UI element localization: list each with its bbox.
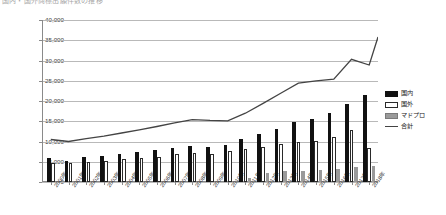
page-title: 国内・国外商標出願件数の推移 — [2, 0, 122, 4]
bar-group: 2009年 — [201, 20, 219, 182]
legend-swatch-madrid — [385, 113, 398, 119]
x-tick-mark — [175, 182, 176, 185]
bar-group: 2013年 — [272, 20, 290, 182]
bar-foreign — [279, 144, 283, 182]
bar-group: 2014年 — [290, 20, 308, 182]
bar-group: 2007年 — [166, 20, 184, 182]
bar-domestic — [345, 104, 349, 182]
bar-domestic — [118, 154, 122, 182]
bar-foreign — [350, 130, 354, 182]
bar-foreign — [261, 147, 265, 182]
bar-group: 2010年 — [219, 20, 237, 182]
legend-swatch-foreign — [385, 102, 398, 108]
bar-group: 2006年 — [148, 20, 166, 182]
bar-foreign — [244, 149, 248, 182]
plot-area: 2000年2001年2002年2003年2004年2005年2006年2007年… — [42, 20, 378, 182]
bar-group: 2000年 — [42, 20, 60, 182]
bar-domestic — [135, 152, 139, 182]
bar-group: 2018年 — [360, 20, 378, 182]
bar-domestic — [65, 161, 69, 182]
bar-group: 2015年 — [307, 20, 325, 182]
bar-foreign — [297, 142, 301, 182]
bar-foreign — [104, 161, 108, 182]
x-tick-mark — [122, 182, 123, 185]
y-tick-mark — [39, 182, 42, 183]
x-tick-mark — [69, 182, 70, 185]
bar-foreign — [140, 158, 144, 182]
bar-foreign — [367, 148, 371, 182]
bar-foreign — [157, 157, 161, 183]
bar-domestic — [171, 148, 175, 182]
legend-item-foreign[interactable]: 国外 — [385, 99, 445, 110]
bar-foreign — [193, 153, 197, 182]
bar-foreign — [51, 163, 55, 182]
bar-domestic — [310, 119, 314, 182]
legend-label: 国外 — [401, 101, 413, 107]
bar-domestic — [239, 139, 243, 182]
bar-foreign — [332, 137, 336, 182]
bar-group: 2005年 — [130, 20, 148, 182]
bar-group: 2003年 — [95, 20, 113, 182]
bar-foreign — [175, 154, 179, 182]
bar-foreign — [210, 154, 214, 182]
bar-domestic — [292, 122, 296, 182]
bar-domestic — [328, 113, 332, 182]
bar-domestic — [363, 95, 367, 182]
legend-item-total[interactable]: 合計 — [385, 121, 445, 132]
x-tick-mark — [281, 182, 282, 185]
bar-group: 2001年 — [60, 20, 78, 182]
bar-foreign — [122, 159, 126, 182]
legend-label: 国内 — [401, 90, 413, 96]
bar-domestic — [206, 147, 210, 182]
bar-foreign — [314, 141, 318, 182]
legend-label: マドプロ — [401, 112, 425, 118]
bar-domestic — [275, 129, 279, 182]
bar-domestic — [188, 146, 192, 182]
chart-page: 国内・国外商標出願件数の推移 05,00010,00015,00020,0002… — [0, 0, 446, 215]
chart-legend: 国内国外マドプロ合計 — [385, 88, 445, 132]
bar-group: 2004年 — [113, 20, 131, 182]
bar-group: 2008年 — [184, 20, 202, 182]
bar-domestic — [100, 156, 104, 182]
bar-group: 2011年 — [237, 20, 255, 182]
legend-swatch-total — [385, 126, 398, 127]
legend-label: 合計 — [401, 123, 413, 129]
x-tick-mark — [352, 182, 353, 185]
bar-domestic — [82, 157, 86, 182]
bar-domestic — [257, 134, 261, 182]
legend-item-madrid[interactable]: マドプロ — [385, 110, 445, 121]
bar-group: 2016年 — [325, 20, 343, 182]
legend-item-domestic[interactable]: 国内 — [385, 88, 445, 99]
bar-domestic — [47, 158, 51, 182]
chart-title-clipped: 国内・国外商標出願件数の推移 — [2, 0, 122, 7]
x-tick-mark — [228, 182, 229, 185]
bar-group: 2012年 — [254, 20, 272, 182]
bar-foreign — [228, 151, 232, 182]
bar-group: 2017年 — [343, 20, 361, 182]
bar-groups: 2000年2001年2002年2003年2004年2005年2006年2007年… — [42, 20, 378, 182]
bar-domestic — [153, 150, 157, 182]
bar-domestic — [224, 145, 228, 182]
bar-foreign — [87, 162, 91, 182]
bar-group: 2002年 — [77, 20, 95, 182]
bar-foreign — [69, 163, 73, 182]
legend-swatch-domestic — [385, 91, 398, 97]
